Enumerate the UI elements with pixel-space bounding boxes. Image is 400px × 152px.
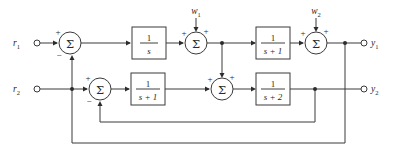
disturbance-label-w1-subscript: 1: [198, 10, 201, 17]
sign-plus-left: +: [181, 28, 186, 38]
sign-plus-top: +: [203, 26, 208, 36]
sigma-symbol: Σ: [96, 83, 104, 97]
input-terminal-r1[interactable]: [34, 40, 40, 46]
arrowhead-r2-in: [83, 87, 88, 92]
sign-plus-top: +: [323, 26, 328, 36]
sigma-symbol: Σ: [312, 37, 320, 51]
sigma-symbol: Σ: [66, 37, 74, 51]
transfer-block-layer: 1 s 1 s + 1 1 s + 1 1 s + 2: [131, 27, 290, 105]
disturbance-label-w2: w2: [311, 6, 321, 17]
control-system-block-diagram: Σ + − Σ + + Σ + + Σ + − Σ + +: [0, 0, 400, 152]
arrowhead-block1s-in: [126, 41, 131, 46]
numerator: 1: [271, 79, 276, 89]
sign-minus: −: [56, 50, 61, 60]
output-terminal-y1[interactable]: [361, 40, 367, 46]
output-terminal-y2[interactable]: [361, 86, 367, 92]
output-label-y1-subscript: 1: [375, 42, 378, 49]
arrowhead-block1sp1top-in: [251, 41, 256, 46]
junction-dot-r2-crossing: [70, 87, 74, 91]
output-label-y2-subscript: 2: [375, 88, 378, 95]
sign-plus: +: [55, 27, 60, 37]
sigma-symbol: Σ: [192, 37, 200, 51]
arrowhead-w2-in: [314, 27, 319, 32]
numerator: 1: [271, 33, 276, 43]
arrowhead-summid-top-in: [220, 73, 225, 78]
disturbance-label-w1: w1: [191, 6, 201, 17]
denominator: s + 1: [139, 92, 158, 102]
transfer-block-1-over-s-plus-1-bottom[interactable]: 1 s + 1: [131, 73, 165, 105]
input-label-r1-subscript: 1: [17, 42, 20, 49]
sign-plus: +: [85, 73, 90, 83]
junction-dot-y1-branch: [343, 41, 347, 45]
arrowhead-feedback-outer-in: [70, 55, 75, 60]
output-label-y1: y1: [370, 38, 378, 49]
sigma-symbol: Σ: [218, 83, 226, 97]
arrowhead-r1-in: [53, 41, 58, 46]
input-label-r2-subscript: 2: [17, 88, 20, 95]
denominator: s + 1: [264, 46, 283, 56]
input-label-r2: r2: [13, 84, 20, 95]
sign-plus-left: +: [300, 28, 305, 38]
arrowhead-sumw1-in: [179, 41, 184, 46]
denominator: s + 2: [264, 92, 283, 102]
arrowhead-w1-in: [194, 27, 199, 32]
numerator: 1: [146, 79, 151, 89]
input-terminal-r2[interactable]: [34, 86, 40, 92]
summing-node-mid[interactable]: Σ + +: [207, 72, 234, 100]
arrowhead-summid-left-in: [205, 87, 210, 92]
sign-plus-left: +: [207, 74, 212, 84]
transfer-block-1-over-s-plus-2[interactable]: 1 s + 2: [256, 73, 290, 105]
arrowhead-feedback-inner-in: [98, 101, 103, 106]
input-label-r1: r1: [13, 38, 20, 49]
output-label-y2: y2: [370, 84, 378, 95]
sign-minus: −: [86, 96, 91, 106]
junction-dot-top-branch: [220, 41, 224, 45]
block-diagram-canvas: Σ + − Σ + + Σ + + Σ + − Σ + +: [0, 0, 400, 152]
arrowhead-sumw2-in: [299, 41, 304, 46]
summing-node-w2[interactable]: Σ + +: [300, 26, 328, 54]
wire-feedback-outer: [72, 43, 345, 143]
sign-plus-top: +: [229, 72, 234, 82]
summing-node-r2[interactable]: Σ + −: [85, 73, 111, 106]
transfer-block-1-over-s[interactable]: 1 s: [132, 27, 166, 59]
arrowhead-block1sp1bot-in: [125, 87, 130, 92]
junction-dot-y2-branch: [313, 87, 317, 91]
transfer-block-1-over-s-plus-1-top[interactable]: 1 s + 1: [256, 27, 290, 59]
summing-node-r1[interactable]: Σ + −: [55, 27, 81, 60]
numerator: 1: [147, 33, 152, 43]
summing-node-w1[interactable]: Σ + +: [181, 26, 208, 54]
denominator: s: [147, 46, 151, 56]
disturbance-label-w2-subscript: 2: [318, 10, 321, 17]
arrowhead-block1sp2-in: [251, 87, 256, 92]
